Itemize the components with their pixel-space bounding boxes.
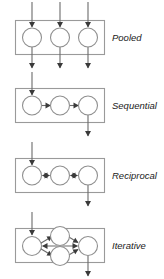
iterative-node-left xyxy=(23,237,42,256)
iterative-node-right xyxy=(79,237,98,256)
pooled-node-3 xyxy=(79,28,98,47)
panel-iterative: Iterative xyxy=(16,212,146,276)
reciprocal-node-1 xyxy=(23,166,42,185)
sequential-node-1 xyxy=(23,96,42,115)
panel-label-iterative: Iterative xyxy=(112,240,146,251)
reciprocal-node-2 xyxy=(51,166,70,185)
pooled-node-1 xyxy=(23,28,42,47)
sequential-node-2 xyxy=(51,96,70,115)
diagram-root: Pooled Sequential Reciprocal xyxy=(0,0,164,279)
pooled-node-2 xyxy=(51,28,70,47)
panel-label-reciprocal: Reciprocal xyxy=(112,170,158,181)
panel-label-sequential: Sequential xyxy=(112,100,158,111)
panel-label-pooled: Pooled xyxy=(112,32,142,43)
iterative-node-top xyxy=(51,227,70,246)
interdependence-diagram-svg: Pooled Sequential Reciprocal xyxy=(0,0,164,279)
reciprocal-node-3 xyxy=(79,166,98,185)
panel-sequential: Sequential xyxy=(16,72,158,136)
sequential-node-3 xyxy=(79,96,98,115)
iterative-node-bottom xyxy=(51,247,70,266)
panel-pooled: Pooled xyxy=(16,2,143,68)
panel-reciprocal: Reciprocal xyxy=(16,142,158,206)
